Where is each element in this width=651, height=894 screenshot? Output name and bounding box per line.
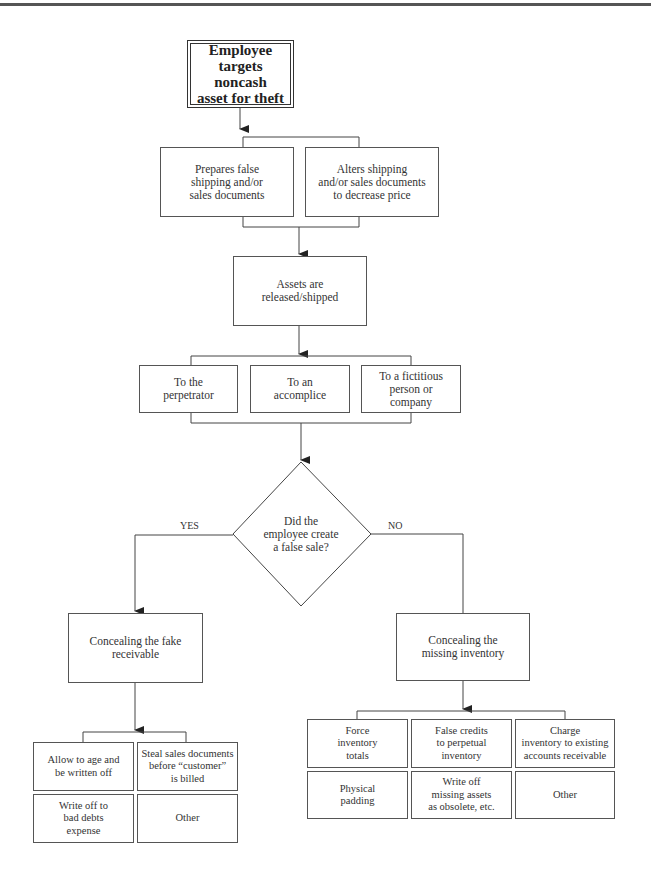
box-to-accomplice: To an accomplice [250,365,350,413]
box-alters-documents: Alters shipping and/or sales documents t… [305,147,439,217]
box-write-off-missing-assets: Write off missing assets as obsolete, et… [411,771,512,819]
yes-label: YES [180,520,199,531]
start-box-employee-targets-asset: Employee targets noncash asset for theft [187,40,294,108]
box-steal-sales-documents: Steal sales documents before “customer” … [137,742,238,791]
no-label: NO [388,520,402,531]
box-physical-padding: Physical padding [307,771,408,819]
box-allow-to-age: Allow to age and be written off [33,742,134,791]
box-other-inventory: Other [515,771,615,819]
box-to-perpetrator: To the perpetrator [139,365,238,413]
box-false-credits: False credits to perpetual inventory [411,719,512,768]
box-write-off-bad-debts: Write off to bad debts expense [33,794,134,843]
box-force-inventory-totals: Force inventory totals [307,719,408,768]
box-charge-inventory: Charge inventory to existing accounts re… [515,719,615,768]
box-prepares-false-documents: Prepares false shipping and/or sales doc… [160,147,294,217]
box-other-receivable: Other [137,794,238,843]
box-assets-released: Assets are released/shipped [233,256,367,326]
box-concealing-missing-inventory: Concealing the missing inventory [396,613,530,681]
decision-false-sale: Did the employee create a false sale? [242,515,360,554]
box-concealing-fake-receivable: Concealing the fake receivable [68,613,203,683]
box-to-fictitious-person: To a fictitious person or company [361,365,461,413]
